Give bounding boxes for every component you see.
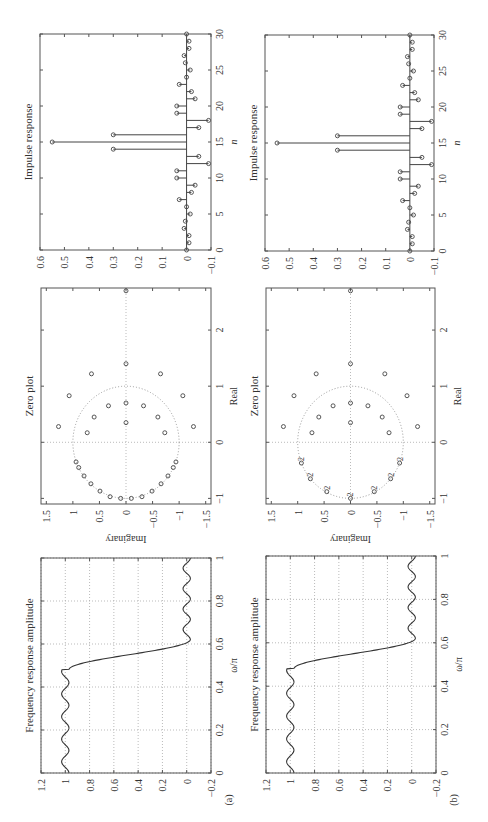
x-tick-label: 0 xyxy=(214,440,225,445)
zero-marker xyxy=(159,482,163,486)
y-tick-label: 0.4 xyxy=(308,257,319,270)
y-tick-label: 1 xyxy=(285,779,296,784)
x-tick-label: 0 xyxy=(214,771,225,776)
y-tick-label: 0 xyxy=(121,510,132,515)
y-tick-label: −0.5 xyxy=(148,510,159,528)
x-tick-label: 30 xyxy=(437,30,448,40)
y-tick-label: −1.5 xyxy=(201,510,212,528)
chart-title: Frequency response amplitude xyxy=(248,597,260,732)
zero-marker xyxy=(156,415,160,419)
x-tick-label: 1 xyxy=(439,554,450,559)
zero-marker xyxy=(159,372,163,376)
x-tick-label: 15 xyxy=(437,138,448,148)
multiplicity-label: 2 xyxy=(370,486,379,490)
chart-title: Impulse response xyxy=(247,105,259,182)
x-tick-label: 0 xyxy=(437,249,448,254)
y-tick-label: 1.5 xyxy=(266,510,277,523)
zero-marker xyxy=(57,425,61,429)
x-tick-label: 25 xyxy=(214,65,225,75)
y-tick-label: 0.6 xyxy=(35,256,46,269)
y-tick-label: 0.8 xyxy=(310,779,321,792)
chart-title: Frequency response amplitude xyxy=(23,598,35,733)
zero-marker xyxy=(181,394,185,398)
zero-marker xyxy=(380,415,384,419)
x-axis-label: ω/π xyxy=(453,657,464,671)
chart-title: Impulse response xyxy=(22,104,34,181)
y-tick-label: 0 xyxy=(346,510,357,515)
zero-marker xyxy=(74,460,78,464)
zero-marker xyxy=(67,394,71,398)
zero-marker xyxy=(387,431,391,435)
zero-marker xyxy=(85,431,89,435)
y-tick-label: 0.5 xyxy=(284,257,295,270)
multiplicity-label: 2 xyxy=(323,486,332,490)
x-tick-label: 5 xyxy=(214,212,225,217)
x-tick-label: 5 xyxy=(437,213,448,218)
x-tick-label: 15 xyxy=(214,137,225,147)
x-axis-label: ω/π xyxy=(228,658,239,672)
x-tick-label: 0.8 xyxy=(214,595,225,608)
x-axis-label: n xyxy=(451,141,462,146)
plot-frame xyxy=(266,556,436,773)
zero-marker xyxy=(89,372,93,376)
x-tick-label: 20 xyxy=(437,102,448,112)
plot-frame xyxy=(41,558,211,773)
x-tick-label: 0 xyxy=(438,440,449,445)
multiplicity-label: 2 xyxy=(396,457,405,461)
y-tick-label: 1 xyxy=(68,510,79,515)
x-tick-label: 0 xyxy=(214,248,225,253)
x-tick-label: −1 xyxy=(214,493,225,504)
y-tick-label: 0.4 xyxy=(133,779,144,792)
frequency-response-curve xyxy=(287,556,416,773)
x-tick-label: 0.4 xyxy=(214,681,225,694)
zero-marker xyxy=(163,431,167,435)
x-tick-label: 2 xyxy=(214,328,225,333)
y-tick-label: 0.6 xyxy=(260,257,271,270)
y-axis-label: Imaginary xyxy=(330,534,371,545)
y-tick-label: −1 xyxy=(398,510,409,521)
y-tick-label: 0 xyxy=(182,779,193,784)
zero-marker xyxy=(142,404,146,408)
zero-marker xyxy=(124,421,128,425)
multiplicity-label: 2 xyxy=(347,492,356,496)
frequency-response-curve xyxy=(62,558,191,773)
zero-marker xyxy=(150,489,154,493)
y-tick-label: 0.3 xyxy=(332,257,343,270)
y-tick-label: 0.4 xyxy=(84,256,95,269)
y-tick-label: 1 xyxy=(60,779,71,784)
y-tick-label: 0.5 xyxy=(94,510,105,523)
panel-label: (b) xyxy=(448,794,460,806)
y-tick-label: 0 xyxy=(405,257,416,262)
chart-a-freq: 00.20.40.60.81−0.200.20.40.60.811.2Frequ… xyxy=(23,556,239,798)
y-tick-label: 0.2 xyxy=(133,256,144,269)
y-tick-label: 0.2 xyxy=(382,779,393,792)
x-axis-label: Real xyxy=(228,387,239,406)
y-tick-label: 1.2 xyxy=(36,779,47,792)
x-tick-label: −1 xyxy=(438,493,449,504)
zero-marker xyxy=(124,401,128,405)
y-tick-label: 0.1 xyxy=(381,257,392,270)
x-tick-label: 1 xyxy=(214,556,225,561)
zero-marker xyxy=(383,372,387,376)
zero-marker xyxy=(416,425,420,429)
y-tick-label: 0.2 xyxy=(157,779,168,792)
zero-marker xyxy=(349,401,353,405)
figure-rotated: 051015202530−0.100.10.20.30.40.50.6Impul… xyxy=(0,0,488,822)
y-tick-label: 1.5 xyxy=(41,510,52,523)
panel-label: (a) xyxy=(223,794,235,805)
x-tick-label: 0.6 xyxy=(439,637,450,650)
zero-marker xyxy=(281,425,285,429)
zero-marker xyxy=(310,431,314,435)
x-tick-label: 10 xyxy=(437,174,448,184)
y-tick-label: 0.8 xyxy=(85,779,96,792)
x-tick-label: 0.4 xyxy=(439,680,450,693)
zero-marker xyxy=(98,489,102,493)
zero-marker xyxy=(106,404,110,408)
chart-b-zero: 2222222−1012−1.5−1−0.500.511.5Zero plotR… xyxy=(248,288,463,545)
zero-marker xyxy=(119,496,123,500)
chart-b-freq: 00.20.40.60.81−0.200.20.40.60.811.2Frequ… xyxy=(248,554,464,798)
x-axis-label: Real xyxy=(452,387,463,406)
chart-a-impulse: 051015202530−0.100.10.20.30.40.50.6Impul… xyxy=(22,29,239,274)
chart-title: Zero plot xyxy=(23,376,35,417)
zero-marker xyxy=(191,425,195,429)
